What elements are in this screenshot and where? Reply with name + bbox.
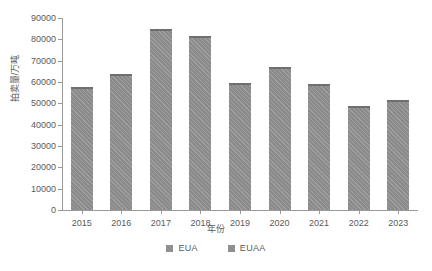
legend-swatch-icon xyxy=(228,245,235,252)
legend-item[interactable]: EUA xyxy=(166,243,197,253)
bar xyxy=(308,84,330,210)
y-tick-mark xyxy=(58,125,62,126)
y-tick-mark xyxy=(58,189,62,190)
bar-chart: 拍卖量/万吨 010000200003000040000500006000070… xyxy=(0,0,432,271)
y-tick-label: 70000 xyxy=(4,56,56,66)
y-tick-mark xyxy=(58,210,62,211)
x-tick-mark xyxy=(240,210,241,214)
legend-label: EUA xyxy=(178,243,197,253)
bar xyxy=(150,29,172,210)
y-tick-label: 30000 xyxy=(4,141,56,151)
legend-swatch-icon xyxy=(166,245,173,252)
x-axis-title: 年份 xyxy=(0,222,432,235)
y-tick-mark xyxy=(58,103,62,104)
y-tick-mark xyxy=(58,18,62,19)
bar xyxy=(269,67,291,210)
y-tick-mark xyxy=(58,82,62,83)
x-tick-mark xyxy=(200,210,201,214)
x-tick-mark xyxy=(319,210,320,214)
bar xyxy=(229,83,251,210)
y-tick-mark xyxy=(58,61,62,62)
bar xyxy=(387,100,409,211)
bar xyxy=(110,74,132,210)
y-tick-label: 80000 xyxy=(4,34,56,44)
y-axis-line xyxy=(62,18,63,210)
x-tick-mark xyxy=(398,210,399,214)
legend-item[interactable]: EUAA xyxy=(228,243,266,253)
bar xyxy=(348,106,370,210)
legend-label: EUAA xyxy=(240,243,266,253)
y-tick-label: 40000 xyxy=(4,120,56,130)
y-tick-label: 20000 xyxy=(4,162,56,172)
x-tick-mark xyxy=(280,210,281,214)
y-tick-mark xyxy=(58,39,62,40)
y-tick-label: 60000 xyxy=(4,77,56,87)
x-tick-mark xyxy=(161,210,162,214)
x-tick-mark xyxy=(82,210,83,214)
y-tick-label: 0 xyxy=(4,205,56,215)
x-tick-mark xyxy=(121,210,122,214)
bar xyxy=(71,87,93,210)
x-tick-mark xyxy=(359,210,360,214)
bar xyxy=(189,36,211,210)
y-tick-label: 90000 xyxy=(4,13,56,23)
y-tick-mark xyxy=(58,167,62,168)
y-tick-label: 10000 xyxy=(4,184,56,194)
plot-area: 0100002000030000400005000060000700008000… xyxy=(62,18,418,210)
y-tick-label: 50000 xyxy=(4,98,56,108)
chart-legend: EUAEUAA xyxy=(0,243,432,253)
y-tick-mark xyxy=(58,146,62,147)
